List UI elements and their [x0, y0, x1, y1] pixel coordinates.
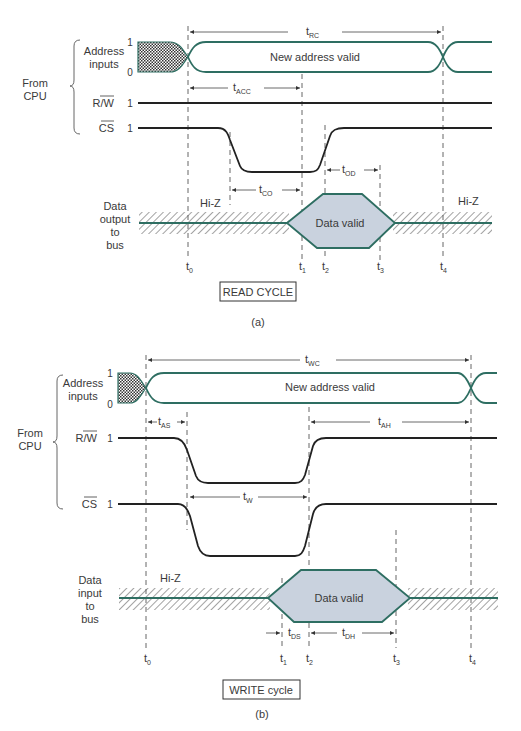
read-hiz-right: Hi-Z: [458, 195, 479, 207]
read-bus-label: bus: [106, 239, 124, 251]
read-trc-label: tRC: [306, 25, 319, 39]
read-data-valid-text: Data valid: [316, 217, 365, 229]
read-cycle-caption: (a): [251, 316, 264, 328]
read-tco-label: tCO: [259, 183, 273, 197]
write-address-level-high: 1: [107, 368, 113, 379]
write-cycle-diagram: From CPU Address inputs 1 0 New address …: [17, 353, 498, 720]
read-address-level-high: 1: [127, 37, 133, 48]
write-from-label: From: [17, 427, 43, 439]
write-from-cpu-brace: [53, 375, 63, 509]
write-tdh-label: tDH: [342, 626, 355, 640]
write-t1-label: t1: [280, 652, 287, 666]
write-rw-signal: [118, 438, 497, 483]
write-tw-label: tW: [243, 490, 253, 504]
read-from-label: From: [22, 77, 48, 89]
write-new-address-valid: New address valid: [285, 381, 375, 393]
write-data-label: Data: [78, 574, 102, 586]
write-address-label: Address: [63, 377, 104, 389]
write-twc-label: tWC: [305, 353, 320, 367]
from-cpu-brace: [70, 40, 80, 134]
read-cs-label: CS: [99, 122, 114, 134]
write-tds-label: tDS: [288, 626, 301, 640]
write-t4-label: t4: [469, 652, 476, 666]
read-address-unknown-region: [138, 42, 188, 72]
read-address-label: Address: [84, 45, 125, 57]
write-to-label: to: [85, 600, 94, 612]
write-tas-label: tAS: [158, 415, 171, 429]
read-cs-signal: [138, 128, 492, 172]
write-t2-label: t2: [306, 652, 313, 666]
write-input-label: input: [78, 587, 102, 599]
write-data-valid-text: Data valid: [315, 592, 364, 604]
read-t2-label: t2: [322, 260, 329, 274]
write-cpu-label: CPU: [18, 440, 41, 452]
read-cpu-label: CPU: [23, 90, 46, 102]
write-address-unknown-region: [118, 373, 146, 403]
write-inputs-label: inputs: [68, 390, 98, 402]
write-t3-label: t3: [393, 652, 400, 666]
read-new-address-valid: New address valid: [270, 51, 360, 63]
write-rw-level: 1: [107, 433, 113, 444]
read-cs-level: 1: [127, 123, 133, 134]
write-cycle-title: WRITE cycle: [229, 684, 293, 696]
read-tacc-label: tACC: [233, 81, 251, 95]
read-to-label: to: [110, 226, 119, 238]
write-address-level-low: 0: [107, 399, 113, 410]
read-rw-level: 1: [127, 98, 133, 109]
write-cs-level: 1: [107, 499, 113, 510]
read-t1-label: t1: [299, 260, 306, 274]
read-rw-label: R/W: [93, 97, 115, 109]
write-cycle-caption: (b): [255, 708, 268, 720]
read-output-label: output: [100, 213, 131, 225]
write-hiz-hatch-left: [119, 588, 270, 610]
read-cycle-diagram: From CPU Address inputs 1 0 New address …: [22, 25, 492, 328]
memory-timing-diagram: From CPU Address inputs 1 0 New address …: [0, 0, 521, 731]
write-cs-label: CS: [82, 498, 97, 510]
write-t0-label: t0: [144, 652, 151, 666]
write-rw-label: R/W: [76, 432, 98, 444]
read-data-label: Data: [103, 200, 127, 212]
read-hiz-left: Hi-Z: [200, 197, 221, 209]
write-bus-label: bus: [81, 613, 99, 625]
read-t3-label: t3: [377, 260, 384, 274]
write-hiz-hatch-right: [408, 588, 498, 610]
read-inputs-label: inputs: [89, 58, 119, 70]
read-tod-label: tOD: [342, 163, 356, 177]
read-t4-label: t4: [440, 260, 447, 274]
read-cycle-title: READ CYCLE: [223, 286, 293, 298]
write-cs-signal: [118, 504, 497, 556]
write-hiz-left: Hi-Z: [160, 572, 181, 584]
read-t0-label: t0: [186, 260, 193, 274]
write-tah-label: tAH: [378, 415, 391, 429]
read-address-level-low: 0: [127, 67, 133, 78]
